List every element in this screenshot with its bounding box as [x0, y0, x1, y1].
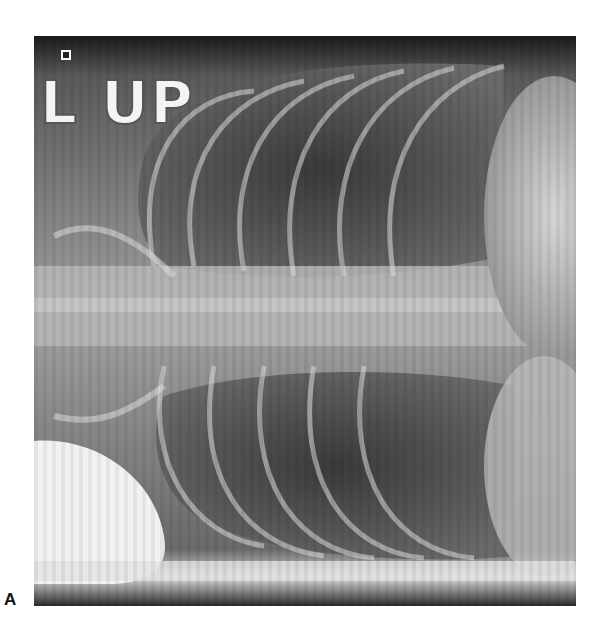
- panel-label: A: [4, 590, 16, 610]
- radiograph-image: L UP: [34, 36, 576, 606]
- side-marker: L UP: [40, 74, 195, 132]
- marker-dot-icon: [61, 50, 71, 60]
